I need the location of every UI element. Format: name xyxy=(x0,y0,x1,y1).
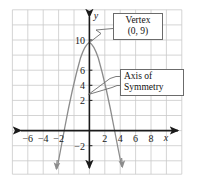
x-tick-label: 6 xyxy=(133,133,138,144)
y-axis-label: y xyxy=(93,10,99,21)
x-tick-label: 2 xyxy=(102,133,107,144)
symmetry-callout-line1: Axis of xyxy=(124,71,180,82)
vertex-callout-line1: Vertex xyxy=(117,15,159,26)
vertex-callout: Vertex (0, 9) xyxy=(113,13,163,40)
vertex-callout-line2: (0, 9) xyxy=(117,26,159,37)
x-tick-label: 8 xyxy=(149,133,154,144)
y-tick-label: −2 xyxy=(74,141,85,152)
symmetry-leader-line-lower xyxy=(88,86,120,95)
x-tick-label: −6 xyxy=(22,133,33,144)
symmetry-callout-line2: Symmetry xyxy=(124,82,180,93)
figure-container: −6 −4 −2 2 4 6 8 10 6 4 2 −2 x y Vertex … xyxy=(0,0,204,184)
x-axis-label: x xyxy=(163,132,169,143)
y-tick-label: 10 xyxy=(75,35,85,46)
axis-of-symmetry-callout: Axis of Symmetry xyxy=(120,69,184,96)
y-tick-label: 6 xyxy=(80,65,85,76)
x-tick-labels: −6 −4 −2 2 4 6 8 xyxy=(22,133,153,144)
x-tick-label: −2 xyxy=(53,133,64,144)
x-tick-label: −4 xyxy=(38,133,49,144)
x-tick-label: 4 xyxy=(118,133,123,144)
y-tick-label: 2 xyxy=(80,95,85,106)
y-tick-label: 4 xyxy=(80,80,85,91)
